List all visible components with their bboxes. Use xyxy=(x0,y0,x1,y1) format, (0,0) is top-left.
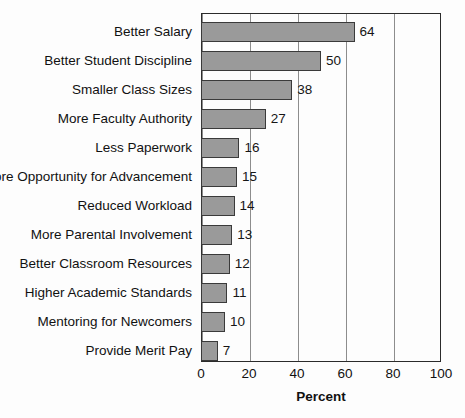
bar-value-label: 10 xyxy=(225,312,245,332)
category-label: More Faculty Authority xyxy=(58,109,197,129)
bar xyxy=(201,167,237,187)
category-label: Reduced Workload xyxy=(77,196,197,216)
bar xyxy=(201,341,218,361)
category-label: More Opportunity for Advancement xyxy=(0,167,197,187)
x-axis-tick-labels: 020406080100 xyxy=(201,366,441,384)
bar-value-label: 13 xyxy=(232,225,252,245)
bar-value-label: 64 xyxy=(355,22,375,42)
bar-value-label: 12 xyxy=(230,254,250,274)
category-label: Better Classroom Resources xyxy=(19,254,197,274)
bar-value-label: 7 xyxy=(218,341,231,361)
category-label: Less Paperwork xyxy=(95,138,197,158)
category-label: Higher Academic Standards xyxy=(25,283,197,303)
bar xyxy=(201,22,355,42)
category-label: Better Student Discipline xyxy=(44,51,197,71)
bar-value-label: 27 xyxy=(266,109,286,129)
category-label: More Parental Involvement xyxy=(31,225,197,245)
bar-row: 10 xyxy=(201,312,441,332)
bar-row: 7 xyxy=(201,341,441,361)
bar-row: 16 xyxy=(201,138,441,158)
bar-value-label: 15 xyxy=(237,167,257,187)
bar-value-label: 50 xyxy=(321,51,341,71)
bar xyxy=(201,196,235,216)
bar xyxy=(201,225,232,245)
bar xyxy=(201,283,227,303)
bar-row: 50 xyxy=(201,51,441,71)
bar-row: 13 xyxy=(201,225,441,245)
bar xyxy=(201,312,225,332)
bar-row: 14 xyxy=(201,196,441,216)
category-label: Smaller Class Sizes xyxy=(72,80,197,100)
x-tick-label: 100 xyxy=(430,366,453,381)
bar-value-label: 38 xyxy=(292,80,312,100)
x-axis-title: Percent xyxy=(201,389,441,404)
category-label: Mentoring for Newcomers xyxy=(37,312,197,332)
bar-row: 15 xyxy=(201,167,441,187)
x-tick-label: 60 xyxy=(337,366,352,381)
bar-value-label: 11 xyxy=(227,283,246,303)
bar-chart: Better SalaryBetter Student DisciplineSm… xyxy=(0,0,465,418)
x-tick-label: 20 xyxy=(241,366,256,381)
bar xyxy=(201,80,292,100)
bar-value-label: 14 xyxy=(235,196,255,216)
bar xyxy=(201,254,230,274)
bar xyxy=(201,109,266,129)
category-label: Better Salary xyxy=(114,22,197,42)
bar-row: 12 xyxy=(201,254,441,274)
bars-layer: 64503827161514131211107 xyxy=(201,13,441,362)
x-tick-label: 40 xyxy=(289,366,304,381)
bar xyxy=(201,51,321,71)
bar-row: 64 xyxy=(201,22,441,42)
bar-row: 27 xyxy=(201,109,441,129)
bar-row: 11 xyxy=(201,283,441,303)
x-tick-label: 80 xyxy=(385,366,400,381)
category-axis-labels: Better SalaryBetter Student DisciplineSm… xyxy=(0,13,197,362)
x-tick-label: 0 xyxy=(197,366,205,381)
category-label: Provide Merit Pay xyxy=(85,341,197,361)
bar-row: 38 xyxy=(201,80,441,100)
bar-value-label: 16 xyxy=(239,138,259,158)
bar xyxy=(201,138,239,158)
